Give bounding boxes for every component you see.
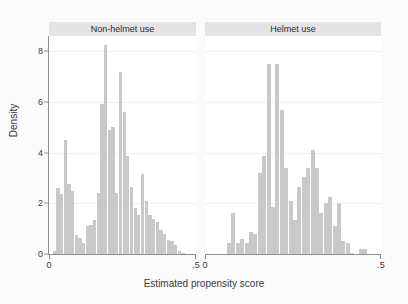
panel-title-helmet-use: Helmet use	[205, 22, 381, 36]
x-axis-tick-label: 0	[46, 261, 51, 270]
y-axis-tick-label: 2	[38, 199, 43, 208]
x-axis-line	[205, 254, 381, 255]
histogram-bar	[236, 243, 240, 254]
histogram-bar	[333, 226, 337, 254]
panel-helmet-use: Helmet use	[205, 22, 381, 254]
y-axis-title-text: Density	[9, 103, 20, 136]
histogram-bar	[311, 150, 315, 254]
x-axis-tick-mark	[380, 255, 381, 259]
histogram-bar	[324, 203, 328, 254]
x-axis-tick-mark	[205, 255, 206, 259]
x-axis-tick-label: .5	[377, 261, 385, 270]
plot-area-helmet-use	[205, 36, 381, 254]
histogram-bar	[227, 243, 231, 254]
histogram-bar	[289, 201, 293, 254]
y-axis-title: Density	[6, 0, 22, 240]
histogram-bar	[258, 173, 262, 254]
bar-series-non-helmet-use	[49, 36, 196, 254]
x-axis-line	[49, 254, 196, 255]
histogram-bar	[315, 168, 319, 254]
panel-non-helmet-use: Non-helmet use	[49, 22, 196, 254]
y-axis-tick-label: 4	[38, 148, 43, 157]
histogram-bar	[267, 64, 271, 254]
histogram-bar	[262, 156, 266, 254]
histogram-bar	[306, 168, 310, 254]
histogram-bar	[328, 197, 332, 254]
y-axis-tick-label: 0	[38, 250, 43, 259]
histogram-bar	[319, 213, 323, 254]
histogram-bar	[293, 220, 297, 254]
x-axis-tick-label: 0	[202, 261, 207, 270]
histogram-bar	[231, 213, 235, 254]
plot-area-non-helmet-use	[49, 36, 196, 254]
bar-series-helmet-use	[205, 36, 381, 254]
histogram-bar	[253, 234, 257, 254]
y-axis-tick-label: 6	[38, 97, 43, 106]
histogram-bar	[240, 239, 244, 254]
histogram-bar	[346, 243, 350, 254]
histogram-bar	[302, 177, 306, 254]
histogram-bar	[337, 203, 341, 254]
histogram-bar	[284, 168, 288, 254]
histogram-bar	[249, 232, 253, 254]
histogram-bar	[280, 110, 284, 254]
histogram-figure: Density 02468 Non-helmet use Helmet use …	[0, 0, 408, 304]
y-axis-tick-label: 8	[38, 47, 43, 56]
histogram-bar	[341, 241, 345, 254]
panel-title-non-helmet-use: Non-helmet use	[49, 22, 196, 36]
x-axis-tick-label: .5	[192, 261, 200, 270]
histogram-bar	[271, 207, 275, 254]
histogram-bar	[275, 64, 279, 254]
histogram-bar	[245, 243, 249, 254]
y-axis-ticks: 02468	[22, 0, 48, 304]
x-axis-title: Estimated propensity score	[0, 278, 408, 289]
x-axis-tick-mark	[195, 255, 196, 259]
x-axis-tick-mark	[49, 255, 50, 259]
histogram-bar	[297, 187, 301, 254]
